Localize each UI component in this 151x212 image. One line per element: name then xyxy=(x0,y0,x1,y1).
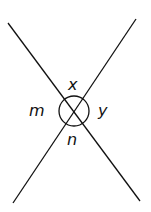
angle-label-x: x xyxy=(67,75,78,94)
intersecting-lines-diagram: x y n m xyxy=(0,0,151,212)
angle-label-m: m xyxy=(29,101,45,120)
angle-label-n: n xyxy=(67,130,77,149)
angle-label-y: y xyxy=(97,101,108,120)
